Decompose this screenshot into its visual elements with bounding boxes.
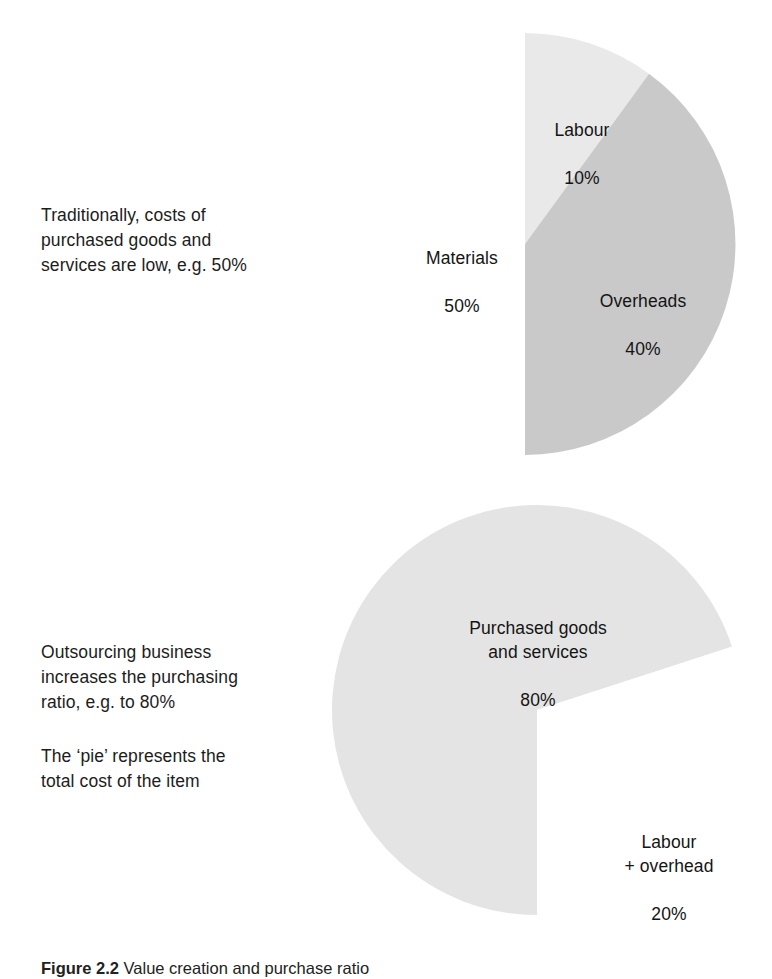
pie2-label-purchased-name: Purchased goods and services	[438, 616, 638, 664]
figure-caption: Figure 2.2 Value creation and purchase r…	[41, 958, 681, 979]
pie1-label-overheads-name: Overheads	[568, 289, 718, 313]
pie2-label-labour-name: Labour + overhead	[584, 830, 754, 878]
pie2-label-labour-overhead: Labour + overhead 20%	[584, 806, 754, 950]
pie1-label-materials-name: Materials	[392, 246, 532, 270]
figure-caption-label: Figure 2.2	[41, 959, 119, 977]
pie1-label-materials-value: 50%	[392, 294, 532, 318]
pie1-label-overheads-value: 40%	[568, 337, 718, 361]
pie1-label-labour-value: 10%	[522, 166, 642, 190]
pie1-label-materials: Materials 50%	[392, 222, 532, 342]
pie2-label-purchased-value: 80%	[438, 688, 638, 712]
pie1-label-labour: Labour 10%	[522, 94, 642, 214]
pie2-label-purchased-goods: Purchased goods and services 80%	[438, 592, 638, 736]
pie1-label-overheads: Overheads 40%	[568, 265, 718, 385]
pie1-label-labour-name: Labour	[522, 118, 642, 142]
note-pie-represents: The ‘pie’ represents the total cost of t…	[41, 744, 351, 794]
figure-caption-text: Value creation and purchase ratio	[124, 959, 370, 977]
pie2-label-labour-value: 20%	[584, 902, 754, 926]
note-traditional-costs: Traditionally, costs of purchased goods …	[41, 203, 341, 278]
note-outsourcing-business: Outsourcing business increases the purch…	[41, 640, 351, 715]
